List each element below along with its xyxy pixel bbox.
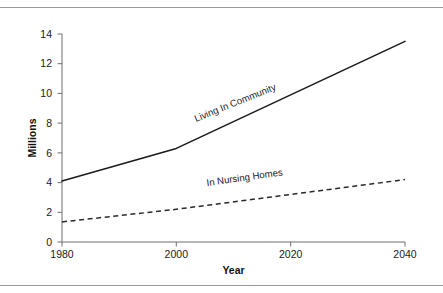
- y-axis-title: Millions: [26, 118, 38, 157]
- series-line-living-in-community: [62, 41, 405, 181]
- line-chart: 0 2 4 6 8 10 12 14 1980 2000 2020 2040 Y…: [0, 0, 443, 293]
- series-line-in-nursing-homes: [62, 180, 405, 222]
- y-tick-label: 14: [40, 28, 52, 40]
- x-tick-labels: 1980 2000 2020 2040: [50, 248, 417, 260]
- y-tick-label: 10: [40, 87, 52, 99]
- x-tick-label: 2040: [393, 248, 417, 260]
- x-tick-label: 2020: [279, 248, 303, 260]
- x-tick-marks: [62, 242, 405, 247]
- y-tick-label: 0: [46, 236, 52, 248]
- y-tick-label: 6: [46, 147, 52, 159]
- y-tick-label: 4: [46, 176, 52, 188]
- chart-svg: 0 2 4 6 8 10 12 14 1980 2000 2020 2040 Y…: [0, 0, 443, 293]
- y-tick-label: 2: [46, 206, 52, 218]
- y-tick-marks: [58, 34, 63, 242]
- figure-bottom-rule: [0, 285, 443, 286]
- series-label-living-in-community: Living In Community: [193, 81, 278, 124]
- y-tick-label: 8: [46, 117, 52, 129]
- series-label-in-nursing-homes: In Nursing Homes: [206, 166, 284, 188]
- figure-page: 0 2 4 6 8 10 12 14 1980 2000 2020 2040 Y…: [0, 0, 443, 293]
- y-tick-label: 12: [40, 57, 52, 69]
- x-axis-title: Year: [222, 264, 244, 276]
- x-tick-label: 1980: [50, 248, 74, 260]
- x-tick-label: 2000: [165, 248, 189, 260]
- y-tick-labels: 0 2 4 6 8 10 12 14: [40, 28, 52, 248]
